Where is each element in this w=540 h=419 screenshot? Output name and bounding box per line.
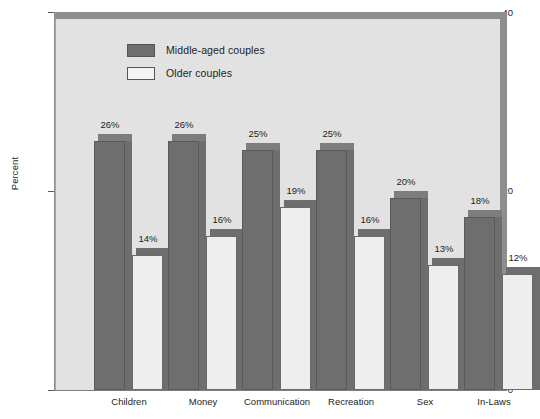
bar-value-label: 14% [126, 233, 170, 244]
bar-front-face [428, 265, 459, 390]
bar-row[interactable] [390, 198, 421, 390]
bar-front-face [464, 217, 495, 390]
bar-side-face [495, 217, 502, 390]
x-tick-label-communication: Communication [244, 396, 310, 407]
bar-top-face [136, 248, 170, 255]
bar-top-face [506, 267, 540, 274]
legend: Middle-aged couples Older couples [127, 40, 265, 86]
bar-side-face [125, 141, 132, 390]
legend-item-label: Middle-aged couples [166, 44, 265, 56]
bar-front-face [206, 236, 237, 390]
bar-row[interactable] [502, 274, 533, 390]
bar-value-label: 16% [200, 214, 244, 225]
legend-item-label: Older couples [166, 67, 232, 79]
bar-row[interactable] [354, 236, 385, 390]
bars-layer: 26% 14% 26% 16% [55, 12, 507, 391]
bar-value-label: 25% [310, 128, 354, 139]
bar-front-face [354, 236, 385, 390]
bar-top-face [432, 258, 466, 265]
bar-row[interactable] [242, 150, 273, 390]
bar-top-face [98, 134, 132, 141]
legend-swatch-icon [127, 44, 155, 57]
legend-item-older-couples[interactable]: Older couples [127, 63, 265, 83]
legend-swatch-icon [127, 67, 155, 80]
bar-top-face [394, 191, 428, 198]
bar-value-label: 18% [458, 195, 502, 206]
bar-top-face [172, 134, 206, 141]
bar-front-face [280, 207, 311, 390]
bar-front-face [168, 141, 199, 390]
bar-front-face [390, 198, 421, 390]
plot-area: 26% 14% 26% 16% [55, 12, 507, 391]
bar-value-label: 12% [496, 252, 540, 263]
x-tick-label-children: Children [111, 396, 146, 407]
bar-row[interactable] [464, 217, 495, 390]
bar-value-label: 16% [348, 214, 392, 225]
x-tick-label-recreation: Recreation [328, 396, 374, 407]
bar-row[interactable] [428, 265, 459, 390]
bar-top-face [284, 200, 318, 207]
bar-row[interactable] [206, 236, 237, 390]
bar-row[interactable] [316, 150, 347, 390]
bar-row[interactable] [280, 207, 311, 390]
bar-value-label: 19% [274, 185, 318, 196]
x-tick-label-sex: Sex [417, 396, 433, 407]
bar-value-label: 13% [422, 243, 466, 254]
x-tick-label-money: Money [189, 396, 218, 407]
bar-front-face [94, 141, 125, 390]
bar-top-face [246, 143, 280, 150]
bar-side-face [533, 274, 540, 390]
bar-value-label: 20% [384, 176, 428, 187]
y-axis-title: Percent [9, 144, 20, 204]
legend-item-middle-aged-couples[interactable]: Middle-aged couples [127, 40, 265, 60]
bar-row[interactable] [132, 255, 163, 390]
bar-top-face [210, 229, 244, 236]
bar-top-face [358, 229, 392, 236]
bar-side-face [347, 150, 354, 390]
bar-top-face [320, 143, 354, 150]
bar-side-face [199, 141, 206, 390]
bar-row[interactable] [168, 141, 199, 390]
bar-front-face [132, 255, 163, 390]
x-tick-label-in-laws: In-Laws [477, 396, 510, 407]
bar-top-face [468, 210, 502, 217]
bar-value-label: 25% [236, 128, 280, 139]
bar-value-label: 26% [88, 119, 132, 130]
bar-row[interactable] [94, 141, 125, 390]
bar-front-face [316, 150, 347, 390]
bar-front-face [502, 274, 533, 390]
bar-value-label: 26% [162, 119, 206, 130]
bar-side-face [421, 198, 428, 390]
bar-front-face [242, 150, 273, 390]
